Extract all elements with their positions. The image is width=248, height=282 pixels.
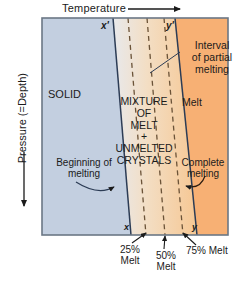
callout-25-percent-melt: 25% Melt: [112, 244, 148, 266]
liquidus-bottom-label: y: [192, 222, 197, 232]
phase-diagram-figure: Temperature Pressure (=Depth) SOLID MIXT…: [0, 0, 248, 282]
y-axis-label: Pressure (=Depth): [16, 48, 28, 188]
callout-arrow-50: [164, 236, 165, 249]
solidus-top-label: x': [101, 20, 109, 31]
annotation-interval-of-partial-melting: Interval of partial melting: [180, 40, 244, 75]
liquidus-top-label: y': [166, 20, 174, 31]
callout-50-percent-melt: 50% Melt: [148, 250, 184, 272]
region-label-melt: Melt: [182, 97, 202, 109]
callout-75-percent-melt: 75% Melt: [186, 245, 246, 256]
x-axis-label: Temperature: [62, 2, 126, 14]
annotation-complete-melting: Complete melting: [176, 157, 230, 179]
annotation-beginning-of-melting: Beginning of melting: [44, 157, 124, 179]
region-label-mixture: MIXTURE OF MELT + UNMELTED CRYSTALS: [110, 96, 178, 167]
region-label-solid: SOLID: [48, 88, 81, 100]
solidus-bottom-label: x: [124, 222, 129, 232]
